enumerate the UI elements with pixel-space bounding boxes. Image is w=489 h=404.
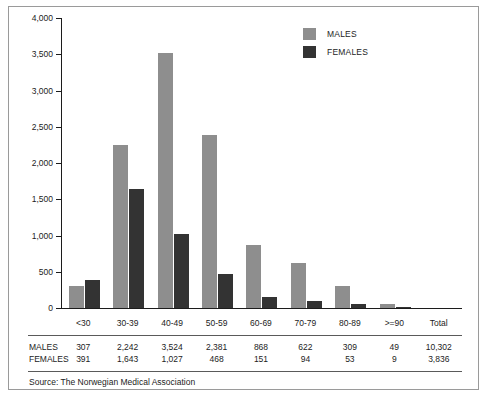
- bar-group: [151, 18, 195, 308]
- x-axis-category-label: 70-79: [283, 319, 327, 328]
- table-cell: 3,836: [417, 355, 461, 364]
- table-cell: 391: [61, 355, 105, 364]
- y-tick-label: 1,000: [32, 232, 53, 241]
- data-table: MALES 3072,2423,5242,3818686223094910,30…: [9, 343, 480, 369]
- table-cell: 309: [328, 343, 372, 352]
- y-tick-label: 4,000: [32, 14, 53, 23]
- legend-item-males: MALES: [303, 26, 423, 42]
- table-cell: 10,302: [417, 343, 461, 352]
- bar-females: [396, 307, 411, 308]
- table-cell: 2,242: [105, 343, 149, 352]
- plot-area: 4,0003,5003,0002,5002,0001,5001,0005000: [61, 18, 462, 315]
- x-axis-category-label: >=90: [372, 319, 416, 328]
- x-axis-category-label: 80-89: [328, 319, 372, 328]
- y-tick-label: 0: [48, 304, 53, 313]
- legend-label-females: FEMALES: [327, 47, 368, 57]
- table-cell: 622: [283, 343, 327, 352]
- bar-females: [307, 301, 322, 308]
- bar-males: [380, 304, 395, 308]
- chart-legend: MALES FEMALES: [303, 26, 423, 62]
- x-axis-category-label: 60-69: [239, 319, 283, 328]
- chart-figure: 4,0003,5003,0002,5002,0001,5001,0005000 …: [8, 6, 479, 390]
- table-cell: 151: [239, 355, 283, 364]
- legend-item-females: FEMALES: [303, 44, 423, 60]
- table-cell: 1,643: [105, 355, 149, 364]
- y-tick-label: 2,500: [32, 123, 53, 132]
- bar-males: [69, 286, 84, 308]
- x-axis-category-label: 50-59: [194, 319, 238, 328]
- table-cell: 94: [283, 355, 327, 364]
- table-row-females: FEMALES 3911,6431,027468151945393,836: [9, 355, 480, 367]
- legend-label-males: MALES: [327, 29, 357, 39]
- bar-group: [418, 18, 462, 308]
- table-cell: 1,027: [150, 355, 194, 364]
- y-tick-label: 3,500: [32, 50, 53, 59]
- x-axis-line: [61, 308, 462, 309]
- y-tick-label: 2,000: [32, 159, 53, 168]
- table-cell: 53: [328, 355, 372, 364]
- bar-males: [291, 263, 306, 308]
- x-axis-category-labels: <3030-3940-4950-5960-6970-7980-89>=90Tot…: [9, 319, 480, 333]
- table-top-divider: [28, 335, 462, 336]
- bar-group: [106, 18, 150, 308]
- bar-males: [158, 53, 173, 308]
- x-axis-category-label: <30: [61, 319, 105, 328]
- table-cell: 2,381: [194, 343, 238, 352]
- table-cell: 49: [372, 343, 416, 352]
- bar-males: [246, 245, 261, 308]
- table-cell: 468: [194, 355, 238, 364]
- y-tick-label: 1,500: [32, 195, 53, 204]
- bar-group: [62, 18, 106, 308]
- table-row-label-males: MALES: [29, 343, 58, 352]
- bar-females: [85, 280, 100, 308]
- bar-females: [351, 304, 366, 308]
- y-tick-label: 500: [39, 268, 53, 277]
- table-cell: 307: [61, 343, 105, 352]
- x-axis-category-label: 30-39: [105, 319, 149, 328]
- bar-group: [195, 18, 239, 308]
- x-axis-category-label: Total: [417, 319, 461, 328]
- bar-females: [218, 274, 233, 308]
- y-axis-tick-labels: 4,0003,5003,0002,5002,0001,5001,0005000: [9, 18, 53, 309]
- bar-males: [202, 135, 217, 308]
- bar-males: [113, 145, 128, 308]
- table-cell: 868: [239, 343, 283, 352]
- legend-swatch-males-icon: [303, 28, 316, 40]
- bar-females: [262, 297, 277, 308]
- bar-females: [174, 234, 189, 308]
- bar-males: [335, 286, 350, 308]
- x-axis-category-label: 40-49: [150, 319, 194, 328]
- y-tick-mark: [56, 308, 62, 309]
- bar-females: [129, 189, 144, 308]
- table-cell: 3,524: [150, 343, 194, 352]
- bar-group: [240, 18, 284, 308]
- y-tick-label: 3,000: [32, 87, 53, 96]
- source-divider: [28, 371, 462, 372]
- legend-swatch-females-icon: [303, 46, 316, 58]
- table-cell: 9: [372, 355, 416, 364]
- source-note: Source: The Norwegian Medical Associatio…: [29, 378, 195, 387]
